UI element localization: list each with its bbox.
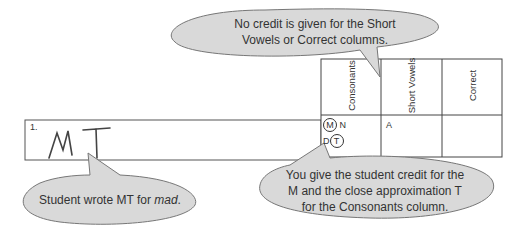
callout-left-suffix: . bbox=[178, 193, 181, 207]
row-number: 1. bbox=[30, 122, 38, 132]
callout-right-line: M and the close approximation T bbox=[265, 183, 485, 199]
header-short-vowels: Short Vowels bbox=[406, 46, 417, 126]
letter: D bbox=[323, 136, 330, 146]
letter: N bbox=[340, 120, 347, 130]
header-consonants: Consonants bbox=[346, 46, 357, 126]
callout-top-line: No credit is given for the Short bbox=[190, 16, 440, 32]
circled-letter: T bbox=[330, 134, 344, 148]
callout-left-emph: mad bbox=[154, 193, 177, 207]
callout-top-text: No credit is given for the Short Vowels … bbox=[190, 16, 440, 48]
callout-left-prefix: Student wrote MT for bbox=[39, 193, 154, 207]
callout-left-bubble bbox=[23, 153, 196, 224]
callout-top-line: Vowels or Correct columns. bbox=[190, 32, 440, 48]
header-correct: Correct bbox=[467, 46, 478, 126]
short-vowels-cell: A bbox=[386, 120, 392, 130]
callout-left-text: Student wrote MT for mad. bbox=[20, 192, 200, 208]
callout-right-line: You give the student credit for the bbox=[265, 167, 485, 183]
callout-right-line: for the Consonants column. bbox=[265, 199, 485, 215]
callout-right-text: You give the student credit for the M an… bbox=[265, 167, 485, 215]
circled-letter: M bbox=[323, 118, 337, 132]
consonants-cell: M N DT bbox=[323, 118, 346, 148]
